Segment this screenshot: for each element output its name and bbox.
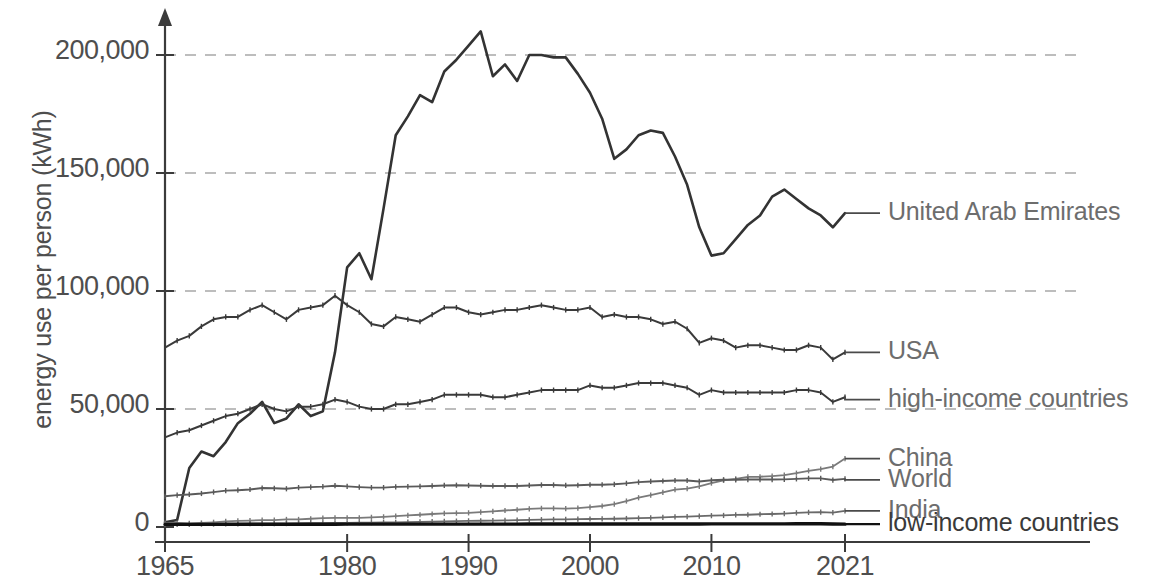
y-tick-label: 150,000 xyxy=(55,153,149,184)
series-line-3 xyxy=(165,459,845,524)
leader-line-2 xyxy=(845,397,880,399)
data-series xyxy=(165,31,845,527)
y-axis-arrow xyxy=(158,8,172,26)
x-tick-label: 1965 xyxy=(85,551,245,582)
y-tick-label: 0 xyxy=(134,507,149,538)
series-label-0: United Arab Emirates xyxy=(888,197,1120,226)
series-leader-lines xyxy=(845,213,880,524)
series-line-0 xyxy=(165,31,845,522)
chart-container: energy use per person (kWh) 050,000100,0… xyxy=(0,0,1160,586)
series-label-1: USA xyxy=(888,336,939,365)
series-label-4: World xyxy=(888,464,952,493)
series-label-6: low-income countries xyxy=(888,508,1119,537)
x-tick-label: 2021 xyxy=(765,551,925,582)
y-tick-label: 200,000 xyxy=(55,35,149,66)
series-label-2: high-income countries xyxy=(888,384,1128,413)
series-line-6 xyxy=(165,524,845,525)
y-tick-label: 100,000 xyxy=(55,271,149,302)
gridlines xyxy=(165,55,1080,409)
series-line-1 xyxy=(165,296,845,360)
line-chart-svg xyxy=(0,0,1160,586)
leader-line-4 xyxy=(845,479,880,480)
y-axis-title: energy use per person (kWh) xyxy=(28,40,57,500)
y-tick-label: 50,000 xyxy=(69,389,149,420)
